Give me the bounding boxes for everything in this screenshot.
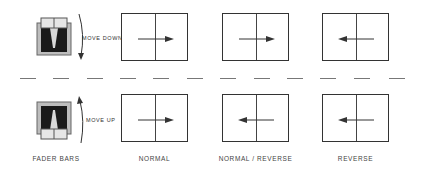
- panel-bottom-normal-reverse: [222, 94, 289, 142]
- panel-bottom-reverse: [322, 94, 389, 142]
- panel-top-normal-reverse: [222, 13, 289, 61]
- fader-up-icon: [35, 100, 75, 142]
- move-down-label: MOVE DOWN: [82, 35, 123, 41]
- move-up-label: MOVE UP: [86, 117, 116, 123]
- label-reverse: REVERSE: [322, 155, 389, 162]
- arrow-right-icon: [122, 95, 189, 143]
- panel-top-reverse: [322, 13, 389, 61]
- label-normal: NORMAL: [121, 155, 188, 162]
- arrow-right-icon: [122, 14, 189, 62]
- arrow-left-icon: [323, 14, 390, 62]
- fader-bar-bottom: [35, 100, 75, 142]
- label-normal-reverse: NORMAL / REVERSE: [205, 155, 306, 162]
- fader-down-icon: [35, 15, 75, 57]
- fader-bar-top: [35, 15, 75, 57]
- panel-top-normal: [121, 13, 188, 61]
- panel-bottom-normal: [121, 94, 188, 142]
- arrow-left-icon: [223, 95, 290, 143]
- arrow-right-icon: [223, 14, 290, 62]
- arrow-left-icon: [323, 95, 390, 143]
- label-fader-bars: FADER BARS: [18, 155, 94, 162]
